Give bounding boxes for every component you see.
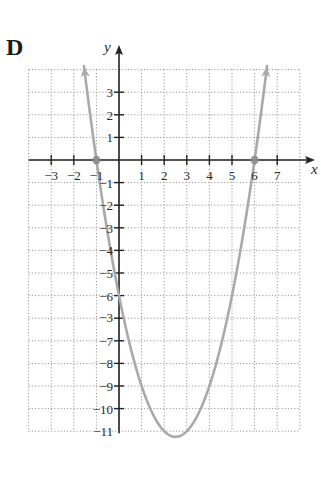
x-intercept-point bbox=[92, 156, 100, 164]
y-tick-label: −7 bbox=[99, 334, 113, 349]
x-tick-label: 4 bbox=[206, 168, 213, 183]
y-tick-label: −10 bbox=[93, 402, 113, 417]
x-tick-label: 3 bbox=[184, 168, 191, 183]
x-tick-label: 2 bbox=[161, 168, 168, 183]
y-tick-label: 2 bbox=[107, 108, 114, 123]
y-tick-label: −2 bbox=[99, 198, 113, 213]
y-tick-label: −6 bbox=[99, 289, 113, 304]
x-tick-label: −2 bbox=[67, 168, 81, 183]
y-tick-label: 1 bbox=[107, 130, 114, 145]
x-tick-label: 7 bbox=[274, 168, 281, 183]
y-axis-label: y bbox=[102, 39, 111, 55]
x-tick-label: 5 bbox=[229, 168, 236, 183]
y-tick-label: −3 bbox=[99, 221, 113, 236]
y-tick-label: −3 bbox=[99, 310, 113, 325]
x-intercept-point bbox=[250, 156, 258, 164]
y-tick-label: −5 bbox=[99, 266, 113, 281]
y-tick-label: 3 bbox=[107, 85, 114, 100]
axes bbox=[29, 45, 315, 433]
y-tick-label: −8 bbox=[99, 356, 113, 371]
y-tick-label: −9 bbox=[99, 379, 113, 394]
x-axis-label: x bbox=[310, 161, 318, 177]
x-tick-label: 6 bbox=[251, 168, 258, 183]
y-tick-label: −1 bbox=[99, 176, 113, 191]
y-tick-label: −4 bbox=[99, 243, 113, 258]
x-tick-label: 1 bbox=[138, 168, 145, 183]
y-tick-label: −11 bbox=[93, 424, 113, 439]
x-tick-label: −3 bbox=[44, 168, 58, 183]
parabola-chart: xy−3−2−11234567321−1−2−3−4−5−6−3−7−8−9−1… bbox=[0, 0, 321, 500]
